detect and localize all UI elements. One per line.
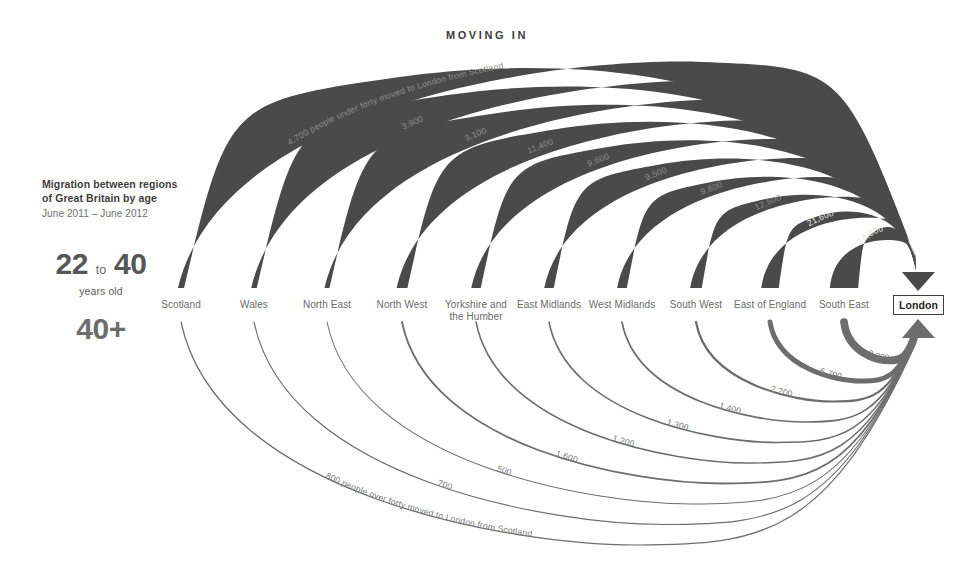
flow-band-young-south-west — [690, 195, 916, 288]
flow-value-old-5: 1,300 — [666, 417, 690, 433]
arrow-into-london-top-icon — [902, 272, 935, 291]
flow-labels-old: 800 people over forty moved to London fr… — [181, 322, 916, 545]
flow-band-old-west-midlands — [622, 322, 916, 422]
flow-value-young-8: 21,600 — [805, 208, 835, 229]
flow-band-old-wales — [254, 322, 916, 525]
migration-chart: MOVING IN Migration between regions of G… — [0, 0, 974, 585]
flow-value-old-2: 500 — [496, 463, 513, 477]
flow-value-old-3: 1,600 — [555, 448, 579, 464]
region-label-line: the Humber — [426, 311, 526, 323]
flow-value-old-7: 2,200 — [769, 383, 793, 398]
flow-bands-young — [178, 62, 916, 288]
flow-value-old-8: 5,700 — [819, 366, 843, 381]
arrow-into-london-bottom-icon — [902, 319, 935, 338]
flow-bands-old — [181, 322, 916, 545]
flow-value-old-6: 1,400 — [718, 400, 742, 416]
region-label-south-east: South East — [794, 299, 894, 311]
region-label-line: South East — [794, 299, 894, 311]
arc-flow-svg: 4,700 people under forty moved to London… — [0, 0, 974, 585]
flow-band-old-scotland — [181, 322, 916, 545]
destination-london-box[interactable]: London — [893, 295, 944, 315]
flow-value-old-1: 700 — [436, 478, 453, 492]
flow-band-old-north-west — [402, 322, 916, 484]
flow-value-old-4: 1,200 — [611, 433, 635, 449]
